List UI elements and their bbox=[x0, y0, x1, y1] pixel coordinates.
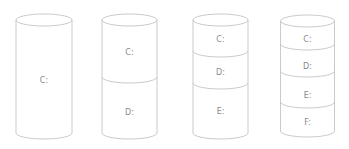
partition-label: C: bbox=[303, 35, 311, 44]
partition-label: C: bbox=[40, 76, 48, 85]
partition-label: D: bbox=[125, 108, 134, 117]
partition-divider bbox=[193, 51, 248, 57]
partition-label: D: bbox=[303, 62, 312, 71]
partition-label: D: bbox=[216, 68, 225, 77]
partition-label: C: bbox=[125, 48, 133, 57]
partition-divider bbox=[193, 83, 248, 89]
partition-divider bbox=[281, 102, 335, 108]
partition-divider bbox=[281, 71, 335, 77]
partition-divider bbox=[102, 77, 157, 83]
partition-label: E: bbox=[304, 91, 312, 100]
partition-label: C: bbox=[216, 35, 224, 44]
cylinder-one-partition: C: bbox=[16, 14, 72, 139]
partition-divider bbox=[281, 44, 335, 50]
partition-label: F: bbox=[304, 118, 311, 127]
partition-diagram: C: C: D: C: D: E: C: D: E: F: bbox=[0, 0, 349, 149]
cylinder-two-partitions: C: D: bbox=[102, 14, 157, 139]
partition-label: E: bbox=[217, 107, 225, 116]
cylinder-four-partitions: C: D: E: F: bbox=[281, 15, 335, 137]
cylinder-three-partitions: C: D: E: bbox=[193, 14, 248, 139]
